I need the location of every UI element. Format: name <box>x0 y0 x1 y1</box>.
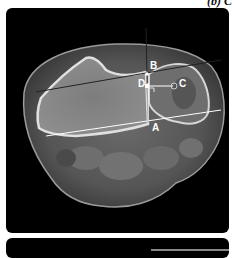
label-d: D <box>138 78 145 89</box>
ct-scan-illustration <box>6 8 229 233</box>
label-a: A <box>152 122 159 133</box>
ct-image-panel: B D C A <box>6 8 229 233</box>
ct-image-panel-second <box>6 238 229 258</box>
label-b: B <box>150 60 157 71</box>
label-c: C <box>179 78 186 89</box>
scale-strip <box>151 249 229 251</box>
